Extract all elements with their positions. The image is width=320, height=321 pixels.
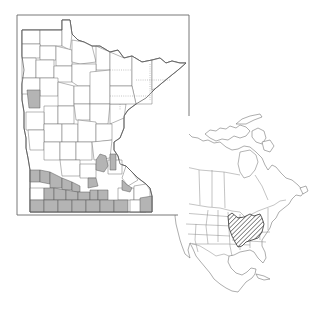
occupied-county-west-central: [27, 90, 40, 108]
arctic-islands: [205, 125, 250, 141]
baffin-island: [262, 140, 274, 152]
range-map-figure: [0, 0, 320, 321]
